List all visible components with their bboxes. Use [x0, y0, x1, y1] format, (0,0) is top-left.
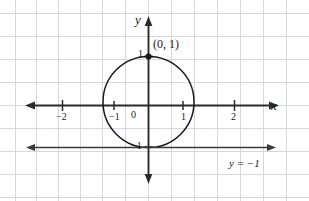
tick-label-y-minus-1: −1 — [131, 141, 142, 151]
y-axis-label: y — [135, 13, 141, 26]
x-axis-label: x — [271, 99, 277, 112]
tick-label-x-2: 2 — [231, 112, 236, 122]
y-axis — [145, 16, 153, 184]
tick-label-y-1: 1 — [138, 49, 143, 59]
line-equation-label: y = −1 — [229, 158, 260, 169]
tick-label-x-1: 1 — [181, 112, 186, 122]
grid-lines — [0, 0, 309, 201]
line-y-equals-minus-1 — [26, 144, 276, 151]
origin-label: 0 — [131, 110, 136, 120]
graph-canvas — [0, 0, 309, 201]
x-axis-arrow-left — [25, 102, 35, 110]
tick-label-x-minus-2: −2 — [56, 112, 67, 122]
point-label-0-1: (0, 1) — [153, 38, 179, 50]
line-y-equals-minus-1-arrow-right — [267, 144, 276, 151]
graph-figure: x y 0 −2 −1 1 2 1 −1 (0, 1) y = −1 — [0, 0, 309, 201]
line-y-equals-minus-1-arrow-left — [26, 144, 35, 151]
point-marker-0-1 — [145, 53, 151, 59]
y-axis-arrow-top — [145, 16, 153, 26]
tick-label-x-minus-1: −1 — [109, 112, 120, 122]
y-axis-arrow-bottom — [145, 174, 153, 184]
